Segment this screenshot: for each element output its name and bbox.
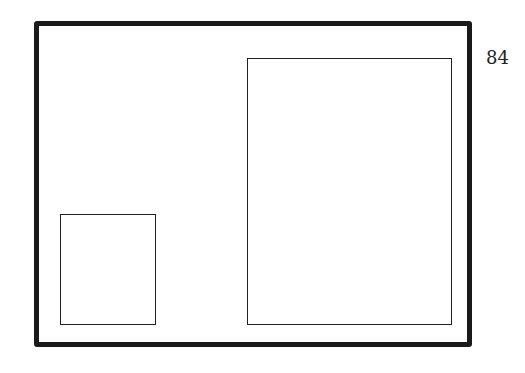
page-number: 84	[486, 47, 509, 68]
large-rectangle	[247, 58, 452, 325]
document-page: 84	[0, 0, 525, 373]
small-rectangle	[60, 214, 156, 325]
